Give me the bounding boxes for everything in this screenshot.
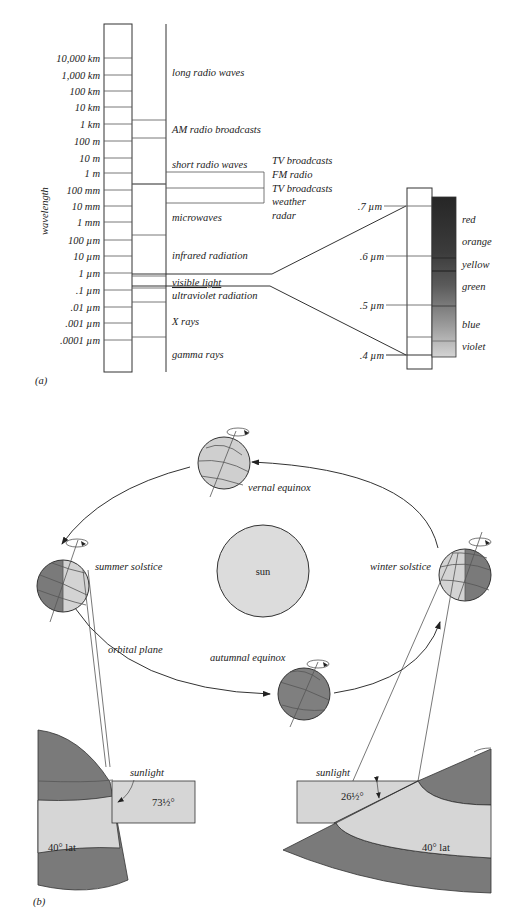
svg-text:.1 µm: .1 µm: [76, 285, 101, 296]
summer-lat-label: 40° lat: [48, 842, 76, 853]
label-winter-solstice: winter solstice: [370, 561, 431, 572]
summer-angle-label: 73½°: [152, 797, 175, 808]
svg-text:10 µm: 10 µm: [73, 251, 100, 262]
visible-column: [407, 188, 432, 369]
axis-label-wavelength: wavelength: [39, 187, 50, 235]
svg-text:long radio waves: long radio waves: [172, 67, 244, 78]
svg-text:orange: orange: [462, 236, 492, 247]
panel-label-b: (b): [33, 896, 46, 908]
svg-text:violet: violet: [462, 341, 486, 352]
svg-text:infrared radiation: infrared radiation: [172, 250, 248, 261]
svg-text:100 m: 100 m: [74, 136, 100, 147]
svg-text:.0001 µm: .0001 µm: [60, 335, 100, 346]
svg-text:.4 µm: .4 µm: [360, 350, 385, 361]
visible-ticks: [384, 206, 432, 355]
summer-sunlight-ray: [83, 570, 106, 767]
visible-spectrum-bar: [432, 197, 456, 357]
wavelength-ticks: [104, 58, 132, 340]
svg-text:.6 µm: .6 µm: [360, 251, 385, 262]
label-vernal-equinox: vernal equinox: [248, 482, 311, 493]
band-boundaries: [132, 120, 166, 337]
svg-text:yellow: yellow: [461, 259, 489, 270]
summer-inset: [38, 730, 195, 890]
svg-text:short radio waves: short radio waves: [172, 159, 247, 170]
earth-summer-solstice: [37, 539, 89, 622]
svg-text:TV broadcasts: TV broadcasts: [272, 183, 332, 194]
sun-label: sun: [256, 566, 271, 577]
svg-text:.01 µm: .01 µm: [71, 302, 101, 313]
svg-text:weather: weather: [272, 196, 307, 207]
svg-text:1,000 km: 1,000 km: [62, 70, 101, 81]
sub-band-boxes: [132, 172, 264, 203]
visible-color-labels: red orange yellow green blue violet: [461, 214, 492, 352]
wavelength-column: [104, 24, 132, 372]
winter-sunlight-label: sunlight: [316, 767, 351, 778]
svg-text:gamma rays: gamma rays: [172, 349, 224, 360]
svg-text:blue: blue: [462, 319, 480, 330]
svg-text:microwaves: microwaves: [172, 212, 222, 223]
svg-text:10,000 km: 10,000 km: [56, 53, 100, 64]
svg-text:1 mm: 1 mm: [77, 217, 100, 228]
svg-text:ultraviolet radiation: ultraviolet radiation: [172, 290, 257, 301]
svg-text:radar: radar: [272, 210, 297, 221]
svg-text:X rays: X rays: [171, 316, 199, 327]
wavelength-tick-labels: 10,000 km 1,000 km 100 km 10 km 1 km 100…: [56, 53, 100, 346]
svg-text:FM radio: FM radio: [271, 169, 313, 180]
winter-inset: [283, 748, 491, 893]
svg-text:10 km: 10 km: [75, 102, 101, 113]
band-labels: long radio waves AM radio broadcasts sho…: [171, 67, 261, 360]
spectrum-diagram: 10,000 km 1,000 km 100 km 10 km 1 km 100…: [35, 24, 492, 387]
earth-autumnal-equinox: [278, 660, 330, 727]
winter-lat-label: 40° lat: [422, 842, 450, 853]
summer-sunlight-ray: [88, 570, 110, 767]
svg-text:.001 µm: .001 µm: [65, 318, 100, 329]
svg-text:10 m: 10 m: [79, 153, 100, 164]
svg-text:green: green: [462, 281, 486, 292]
svg-text:red: red: [462, 214, 476, 225]
svg-text:1 km: 1 km: [80, 119, 101, 130]
svg-text:10 mm: 10 mm: [72, 201, 101, 212]
svg-text:100 mm: 100 mm: [66, 185, 100, 196]
label-summer-solstice: summer solstice: [95, 561, 163, 572]
summer-sunlight-label: sunlight: [130, 767, 165, 778]
figure-canvas: 10,000 km 1,000 km 100 km 10 km 1 km 100…: [0, 0, 519, 916]
winter-angle-label: 26½°: [341, 791, 364, 802]
earth-vernal-equinox: [198, 428, 250, 497]
sub-band-labels: TV broadcasts FM radio TV broadcasts wea…: [271, 155, 332, 221]
orbital-plane-label: orbital plane: [108, 644, 163, 655]
svg-text:1 m: 1 m: [85, 168, 101, 179]
label-autumnal-equinox: autumnal equinox: [210, 652, 286, 663]
svg-text:TV broadcasts: TV broadcasts: [272, 155, 332, 166]
svg-text:100 µm: 100 µm: [68, 235, 100, 246]
svg-text:.7 µm: .7 µm: [358, 201, 383, 212]
panel-label-a: (a): [35, 375, 48, 387]
seasons-diagram: orbital plane sun vernal equinox: [33, 428, 491, 908]
svg-text:100 km: 100 km: [69, 86, 100, 97]
svg-text:1 µm: 1 µm: [78, 268, 100, 279]
svg-text:.5 µm: .5 µm: [360, 300, 385, 311]
svg-text:AM radio broadcasts: AM radio broadcasts: [171, 124, 261, 135]
